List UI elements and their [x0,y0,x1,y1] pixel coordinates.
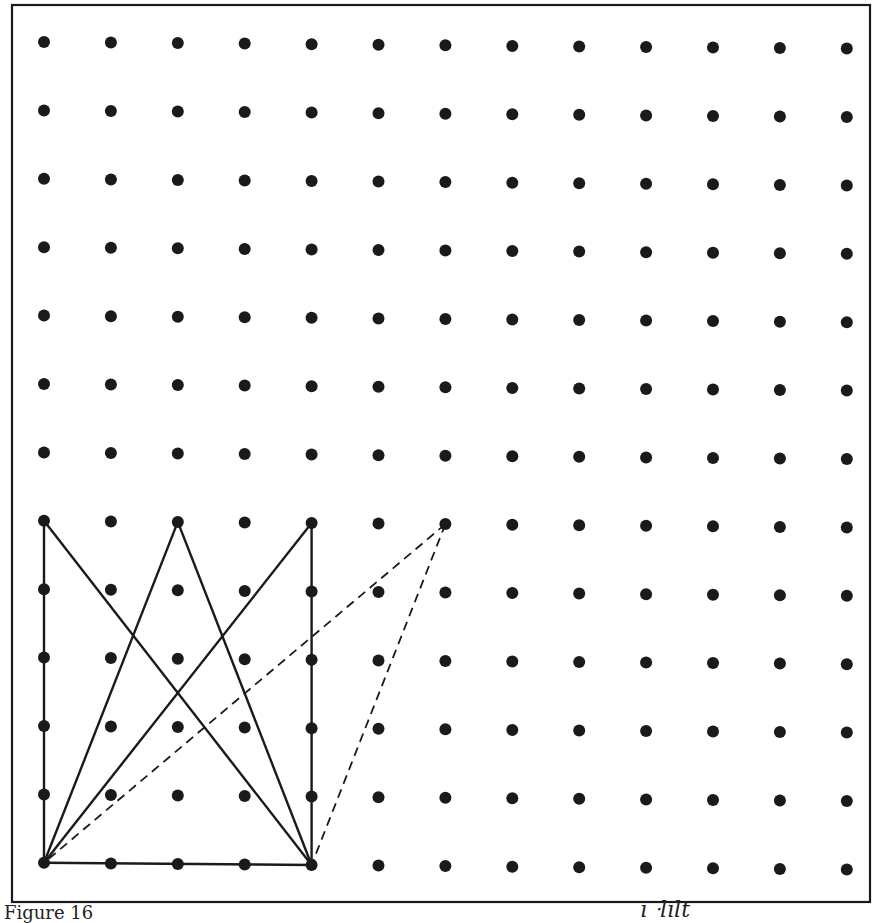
grid-dot [707,110,719,122]
grid-dot [439,655,451,667]
grid-dot [707,726,719,738]
grid-dot [38,36,50,48]
grid-dot [707,452,719,464]
grid-dot [306,449,318,461]
grid-dot [774,658,786,670]
grid-dot [239,380,251,392]
grid-dot [239,243,251,255]
grid-dot [640,41,652,53]
grid-dot [506,40,518,52]
grid-dot [774,795,786,807]
grid-dot [707,589,719,601]
grid-dot [306,585,318,597]
grid-dot [105,515,117,527]
grid-dot [506,108,518,120]
grid-dot [373,723,385,735]
grid-dot [506,245,518,257]
grid-dot [774,589,786,601]
grid-dot [841,43,853,55]
grid-dot [172,584,184,596]
grid-dot [239,311,251,323]
grid-dot [239,722,251,734]
grid-dot [439,108,451,120]
grid-dot [774,42,786,54]
solid-segment [44,522,178,863]
grid-dot [640,178,652,190]
grid-dot [506,314,518,326]
grid-dot [573,451,585,463]
grid-dot [306,243,318,255]
grid-dot [373,586,385,598]
grid-dot [38,104,50,116]
grid-dot [239,790,251,802]
grid-dot [105,242,117,254]
grid-dot [707,178,719,190]
grid-dot [373,107,385,119]
grid-dot [306,38,318,50]
grid-dot [640,451,652,463]
grid-dot [239,38,251,50]
grid-dot [707,384,719,396]
grid-dot [172,379,184,391]
grid-dot [105,105,117,117]
figure-caption: Figure 16 [4,903,93,923]
grid-dot [573,109,585,121]
grid-dot [306,791,318,803]
grid-dot [573,40,585,52]
grid-dot [841,795,853,807]
grid-dot [306,722,318,734]
grid-dot [239,859,251,871]
grid-dot [573,314,585,326]
grid-dot [640,862,652,874]
grid-dot [306,859,318,871]
grid-dot [439,792,451,804]
grid-dot [373,244,385,256]
grid-dot [373,39,385,51]
grid-dot [640,383,652,395]
grid-dot [306,380,318,392]
grid-dot [841,590,853,602]
grid-dot [774,384,786,396]
grid-dot [172,174,184,186]
grid-dot [774,247,786,259]
grid-dot [774,726,786,738]
grid-dot [239,106,251,118]
grid-dot [239,653,251,665]
grid-dots [38,36,853,875]
grid-dot [640,725,652,737]
grid-dot [105,310,117,322]
grid-dot [172,448,184,460]
grid-dot [373,176,385,188]
grid-dot [640,315,652,327]
grid-dot [640,246,652,258]
grid-dot [105,379,117,391]
grid-dot [506,656,518,668]
grid-dot [707,794,719,806]
grid-dot [841,385,853,397]
grid-dot [38,720,50,732]
grid-dot [38,241,50,253]
grid-dot [239,448,251,460]
grid-dot [38,515,50,527]
grid-dot [841,521,853,533]
grid-dot [774,863,786,875]
grid-dot [506,861,518,873]
grid-dot [306,312,318,324]
grid-dot [774,179,786,191]
grid-dot [573,382,585,394]
grid-dot [707,315,719,327]
grid-dot [172,790,184,802]
grid-dot [105,721,117,733]
grid-dot [306,517,318,529]
grid-dot [38,378,50,390]
grid-dot [707,657,719,669]
grid-dot [306,175,318,187]
figure-lines [44,521,445,865]
grid-dot [439,450,451,462]
dashed-segment [312,524,446,865]
dashed-segment [44,524,445,863]
grid-dot [306,654,318,666]
grid-dot [38,310,50,322]
grid-dot [841,111,853,123]
